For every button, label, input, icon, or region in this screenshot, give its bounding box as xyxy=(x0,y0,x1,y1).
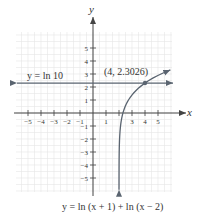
x-tick-label: 4 xyxy=(143,118,147,126)
y-tick-label: 1 xyxy=(85,97,89,105)
x-tick-label: 1 xyxy=(104,118,108,126)
point-label: (4, 2.3026) xyxy=(104,66,148,78)
intersection-point xyxy=(143,81,147,85)
y-tick-label: −4 xyxy=(81,162,89,170)
y-axis-label: y xyxy=(88,3,94,15)
function-graph: −5−4−3−2−1134512345−1−2−3−4−5 y x y = ln… xyxy=(0,0,200,216)
y-tick-label: −5 xyxy=(81,175,89,183)
y-tick-label: 2 xyxy=(85,84,89,92)
x-tick-label: −3 xyxy=(50,118,58,126)
hline-label: y = ln 10 xyxy=(27,70,63,81)
x-tick-label: −5 xyxy=(24,118,32,126)
curve-label: y = ln (x + 1) + ln (x − 2) xyxy=(62,201,163,213)
y-tick-label: −2 xyxy=(81,136,89,144)
grid xyxy=(16,32,172,192)
x-axis-label: x xyxy=(186,106,192,118)
x-tick-label: 5 xyxy=(156,118,160,126)
x-tick-label: −4 xyxy=(37,118,45,126)
y-tick-label: 4 xyxy=(85,58,89,66)
x-tick-label: 3 xyxy=(130,118,134,126)
x-tick-label: −2 xyxy=(63,118,71,126)
y-tick-label: −1 xyxy=(81,123,89,131)
y-tick-label: 3 xyxy=(85,71,89,79)
y-tick-label: −3 xyxy=(81,149,89,157)
y-tick-label: 5 xyxy=(85,45,89,53)
